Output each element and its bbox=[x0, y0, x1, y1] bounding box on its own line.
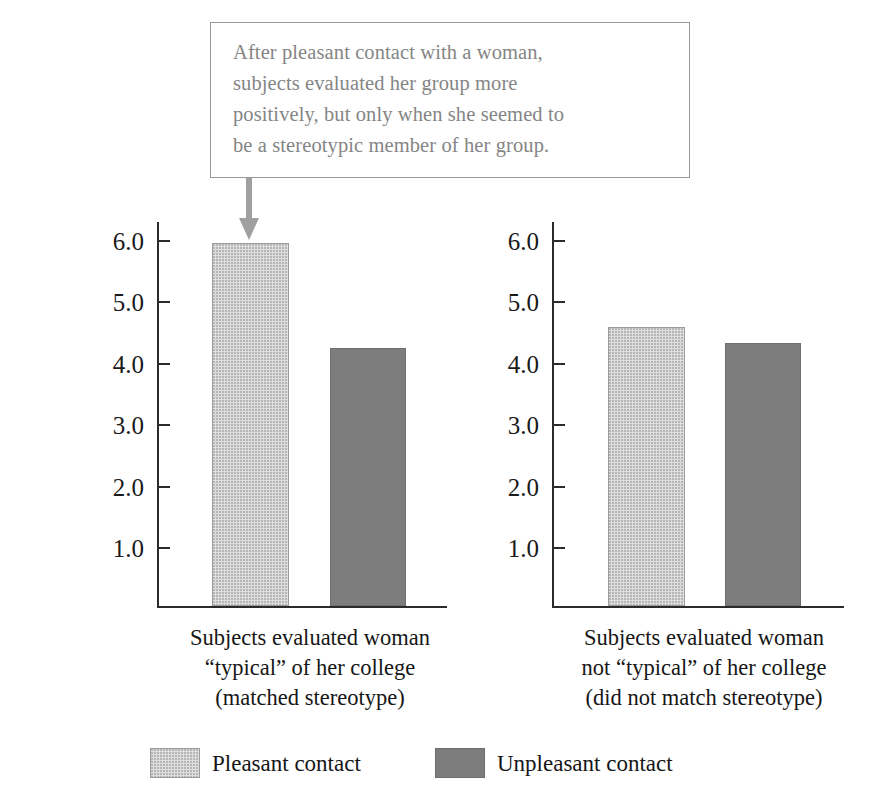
y-tick-label-left-1: 1.0 bbox=[88, 536, 144, 561]
y-tick-right-6 bbox=[554, 240, 565, 242]
y-tick-right-2 bbox=[554, 486, 565, 488]
y-tick-right-5 bbox=[554, 301, 565, 303]
legend-swatch-pleasant bbox=[150, 748, 200, 778]
bar-left-pleasant bbox=[212, 243, 289, 606]
y-tick-left-6 bbox=[159, 240, 170, 242]
y-tick-label-right-1: 1.0 bbox=[483, 536, 539, 561]
legend-swatch-unpleasant bbox=[435, 748, 485, 778]
bar-right-unpleasant bbox=[725, 343, 801, 606]
y-tick-left-4 bbox=[159, 363, 170, 365]
y-tick-label-right-5: 5.0 bbox=[483, 290, 539, 315]
y-tick-right-4 bbox=[554, 363, 565, 365]
y-axis-line-left bbox=[157, 222, 159, 608]
y-tick-label-right-2: 2.0 bbox=[483, 475, 539, 500]
legend-item-unpleasant-contact: Unpleasant contact bbox=[435, 748, 673, 778]
legend-label-pleasant: Pleasant contact bbox=[212, 752, 361, 775]
y-tick-left-3 bbox=[159, 424, 170, 426]
legend-item-pleasant-contact: Pleasant contact bbox=[150, 748, 361, 778]
chart-panel-right: 6.0 5.0 4.0 3.0 2.0 1.0 Subjects evaluat… bbox=[395, 0, 884, 812]
y-tick-left-2 bbox=[159, 486, 170, 488]
y-tick-label-right-3: 3.0 bbox=[483, 413, 539, 438]
y-axis-line-right bbox=[552, 222, 554, 608]
y-tick-label-right-4: 4.0 bbox=[483, 352, 539, 377]
chart-legend: Pleasant contact Unpleasant contact bbox=[0, 748, 884, 790]
y-tick-label-left-2: 2.0 bbox=[88, 475, 144, 500]
y-tick-left-1 bbox=[159, 547, 170, 549]
y-tick-label-left-6: 6.0 bbox=[88, 229, 144, 254]
y-tick-label-left-3: 3.0 bbox=[88, 413, 144, 438]
y-tick-label-left-5: 5.0 bbox=[88, 290, 144, 315]
y-tick-label-left-4: 4.0 bbox=[88, 352, 144, 377]
bar-right-pleasant bbox=[608, 327, 685, 606]
panel-caption-right: Subjects evaluated woman not “typical” o… bbox=[509, 623, 884, 713]
y-tick-left-5 bbox=[159, 301, 170, 303]
y-tick-right-1 bbox=[554, 547, 565, 549]
legend-label-unpleasant: Unpleasant contact bbox=[497, 752, 673, 775]
x-axis-baseline-right bbox=[552, 606, 844, 608]
y-tick-right-3 bbox=[554, 424, 565, 426]
y-tick-label-right-6: 6.0 bbox=[483, 229, 539, 254]
